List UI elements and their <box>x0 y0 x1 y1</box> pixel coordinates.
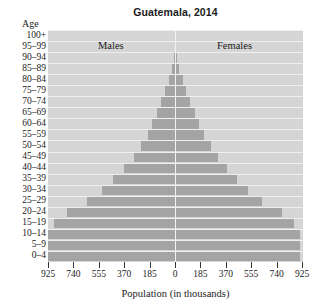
population-pyramid-figure: Guatemala, 2014 Age 0–45–910–1415–1920–2… <box>0 0 325 308</box>
pyramid-band <box>48 240 303 251</box>
bar-males <box>54 219 175 228</box>
age-tick-label: 45–49 <box>2 151 46 161</box>
x-axis-tick-label: 925 <box>285 269 319 279</box>
x-axis-title: Population (in thousands) <box>48 288 303 299</box>
pyramid-band <box>48 74 303 85</box>
x-axis-tick <box>73 262 74 268</box>
plot-area <box>48 30 303 262</box>
pyramid-band <box>48 174 303 185</box>
x-axis-tick <box>48 262 49 268</box>
pyramid-band <box>48 129 303 140</box>
bar-females <box>176 64 179 73</box>
age-tick-label: 30–34 <box>2 184 46 194</box>
bar-males <box>48 230 175 239</box>
bar-females <box>176 153 218 162</box>
bar-males <box>134 153 175 162</box>
pyramid-band <box>48 185 303 196</box>
bar-females <box>176 119 199 128</box>
age-tick-label: 40–44 <box>2 162 46 172</box>
bar-females <box>176 130 204 139</box>
bar-males <box>48 241 175 250</box>
pyramid-band <box>48 218 303 229</box>
age-tick-label: 95–99 <box>2 41 46 51</box>
bar-females <box>176 219 294 228</box>
pyramid-band <box>48 251 303 262</box>
bar-males <box>48 252 175 261</box>
bar-males <box>102 186 175 195</box>
x-axis-tick <box>226 262 227 268</box>
bar-females <box>176 141 211 150</box>
pyramid-band <box>48 107 303 118</box>
age-tick-label: 90–94 <box>2 52 46 62</box>
pyramid-band <box>48 63 303 74</box>
x-axis-tick <box>302 262 303 268</box>
age-tick-label: 100+ <box>2 30 46 40</box>
pyramid-band <box>48 163 303 174</box>
gridline <box>48 30 303 31</box>
age-tick-label: 25–29 <box>2 195 46 205</box>
legend-label-males: Males <box>98 40 124 51</box>
x-axis-tick-labels: 9257405553701850185370555740925 <box>0 269 325 283</box>
age-tick-label: 55–59 <box>2 129 46 139</box>
chart-title: Guatemala, 2014 <box>48 6 303 18</box>
x-axis-tick <box>277 262 278 268</box>
gridline <box>48 41 303 42</box>
age-axis-caption: Age <box>22 18 39 29</box>
age-tick-label: 0–4 <box>2 250 46 260</box>
age-tick-label: 5–9 <box>2 239 46 249</box>
bar-females <box>176 86 186 95</box>
bar-males <box>67 208 175 217</box>
bar-females <box>176 241 300 250</box>
age-tick-label: 50–54 <box>2 140 46 150</box>
age-tick-label: 85–89 <box>2 63 46 73</box>
bar-males <box>148 130 175 139</box>
pyramid-band <box>48 118 303 129</box>
bar-females <box>176 252 300 261</box>
bar-males <box>169 75 175 84</box>
age-tick-label: 20–24 <box>2 206 46 216</box>
pyramid-band <box>48 207 303 218</box>
bar-females <box>176 108 195 117</box>
bar-females <box>176 53 177 62</box>
bar-females <box>176 75 183 84</box>
x-axis-tick <box>175 262 176 268</box>
x-axis-tick <box>150 262 151 268</box>
age-tick-label-column: 0–45–910–1415–1920–2425–2930–3435–3940–4… <box>0 30 46 262</box>
bar-males <box>124 164 175 173</box>
pyramid-band <box>48 152 303 163</box>
bar-males <box>113 175 175 184</box>
pyramid-band <box>48 229 303 240</box>
bar-females <box>176 186 248 195</box>
pyramid-band <box>48 41 303 52</box>
pyramid-band <box>48 196 303 207</box>
bar-males <box>152 119 175 128</box>
x-axis-tick <box>200 262 201 268</box>
pyramid-band <box>48 140 303 151</box>
pyramid-band <box>48 52 303 63</box>
age-tick-label: 35–39 <box>2 173 46 183</box>
bar-males <box>172 64 175 73</box>
age-tick-label: 80–84 <box>2 74 46 84</box>
bar-females <box>176 97 190 106</box>
bar-females <box>176 230 300 239</box>
bar-males <box>174 53 175 62</box>
bar-females <box>176 197 262 206</box>
bar-females <box>176 164 227 173</box>
bar-males <box>165 86 175 95</box>
bar-males <box>157 108 175 117</box>
x-axis-tick <box>99 262 100 268</box>
bar-males <box>141 141 175 150</box>
age-tick-label: 65–69 <box>2 107 46 117</box>
pyramid-band <box>48 96 303 107</box>
age-tick-label: 60–64 <box>2 118 46 128</box>
pyramid-band <box>48 30 303 41</box>
age-tick-label: 15–19 <box>2 217 46 227</box>
x-axis-tick <box>124 262 125 268</box>
bar-females <box>176 175 237 184</box>
legend-label-females: Females <box>217 40 252 51</box>
age-tick-label: 10–14 <box>2 228 46 238</box>
pyramid-band <box>48 85 303 96</box>
bar-males <box>87 197 175 206</box>
age-tick-label: 75–79 <box>2 85 46 95</box>
bar-females <box>176 208 282 217</box>
